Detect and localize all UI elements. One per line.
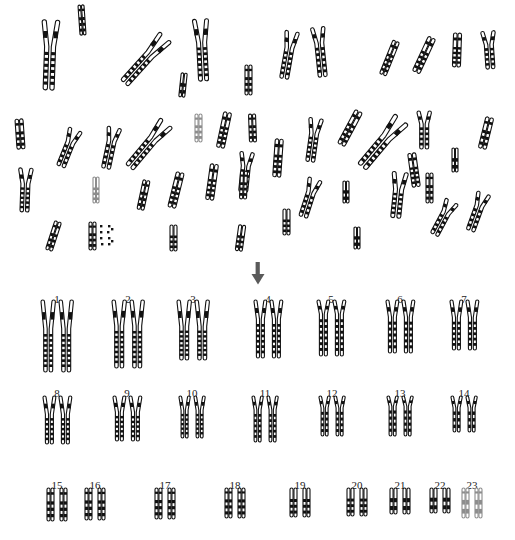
karyotype-chromosome bbox=[400, 484, 413, 518]
spread-chromosome bbox=[50, 122, 87, 174]
karyotype-chromosome bbox=[152, 484, 165, 523]
spread-chromosome bbox=[118, 113, 177, 178]
spread-chromosome bbox=[41, 216, 65, 256]
karyotype-chromosome bbox=[287, 484, 300, 521]
karyotype-chromosome bbox=[95, 484, 108, 524]
spread-chromosome bbox=[189, 14, 215, 85]
spread-chromosome bbox=[213, 107, 236, 153]
spread-chromosome bbox=[423, 169, 436, 207]
spread-chromosome bbox=[12, 115, 29, 154]
spread-chromosome bbox=[408, 31, 440, 79]
karyotype-chromosome bbox=[127, 296, 147, 372]
spread-chromosome bbox=[14, 164, 36, 217]
spread-chromosome bbox=[75, 1, 90, 40]
sorted-karyotype: 1234567891011121314151617181920212223 bbox=[0, 258, 515, 540]
karyotype-figure: 1234567891011121314151617181920212223 bbox=[0, 0, 515, 540]
spread-chromosome bbox=[449, 144, 461, 176]
karyotype-chromosome bbox=[344, 484, 357, 520]
karyotype-chromosome bbox=[331, 392, 348, 440]
spread-chromosome bbox=[477, 26, 501, 73]
karyotype-chromosome bbox=[222, 484, 235, 522]
spread-chromosome bbox=[269, 135, 286, 182]
karyotype-chromosome bbox=[440, 484, 453, 517]
karyotype-chromosome bbox=[330, 296, 349, 360]
spread-chromosome bbox=[459, 186, 495, 238]
karyotype-chromosome bbox=[56, 392, 75, 448]
spread-chromosome bbox=[164, 167, 188, 213]
spread-chromosome bbox=[280, 205, 293, 239]
karyotype-chromosome bbox=[357, 484, 370, 520]
spread-chromosome bbox=[333, 104, 367, 151]
spread-chromosome bbox=[449, 29, 464, 71]
spread-chromosome bbox=[95, 121, 125, 174]
karyotype-chromosome bbox=[56, 296, 76, 376]
spread-chromosome bbox=[474, 112, 497, 154]
karyotype-chromosome bbox=[264, 392, 281, 446]
spread-chromosome bbox=[340, 177, 352, 207]
spread-chromosome bbox=[202, 159, 222, 205]
karyotype-chromosome bbox=[82, 484, 95, 524]
karyotype-chromosome bbox=[472, 484, 485, 522]
karyotype-chromosome bbox=[165, 484, 178, 523]
spread-chromosome bbox=[175, 68, 190, 101]
karyotype-chromosome bbox=[191, 392, 208, 442]
spread-chromosome bbox=[167, 221, 180, 255]
spread-chromosome bbox=[307, 22, 333, 82]
spread-chromosome bbox=[299, 113, 326, 167]
karyotype-chromosome bbox=[463, 296, 482, 354]
karyotype-chromosome bbox=[57, 484, 70, 525]
karyotype-chromosome bbox=[427, 484, 440, 517]
karyotype-chromosome bbox=[300, 484, 313, 521]
karyotype-chromosome bbox=[44, 484, 57, 525]
spread-chromosome bbox=[414, 107, 434, 153]
karyotype-chromosome bbox=[126, 392, 145, 445]
karyotype-chromosome bbox=[399, 392, 416, 440]
karyotype-chromosome bbox=[192, 296, 212, 364]
karyotype-chromosome bbox=[463, 392, 480, 436]
spread-chromosome bbox=[273, 26, 303, 85]
spread-chromosome bbox=[236, 167, 250, 203]
spread-chromosome bbox=[375, 35, 404, 81]
spread-chromosome bbox=[245, 110, 259, 146]
spread-chromosome bbox=[242, 61, 255, 99]
spread-chromosome bbox=[351, 223, 363, 253]
metaphase-spread bbox=[0, 0, 515, 258]
spread-chromosome bbox=[292, 172, 326, 224]
spread-chromosome bbox=[192, 110, 205, 146]
karyotype-chromosome bbox=[267, 296, 286, 362]
spread-chromosome bbox=[231, 220, 249, 255]
chromosome-speckles bbox=[97, 223, 115, 249]
karyotype-chromosome bbox=[387, 484, 400, 518]
spread-chromosome bbox=[113, 27, 176, 94]
karyotype-chromosome bbox=[459, 484, 472, 522]
spread-chromosome bbox=[90, 173, 102, 207]
karyotype-chromosome bbox=[235, 484, 248, 522]
spread-chromosome bbox=[37, 16, 63, 95]
karyotype-chromosome bbox=[399, 296, 418, 357]
spread-chromosome bbox=[133, 175, 154, 215]
